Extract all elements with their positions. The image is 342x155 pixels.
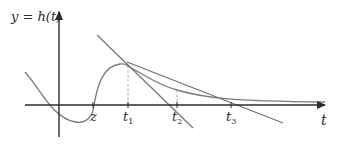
tangent-line-at-t2 bbox=[127, 62, 283, 123]
point-label-t1: t1 bbox=[123, 109, 133, 126]
x-axis-label: t bbox=[321, 112, 327, 128]
point-label-t2: t2 bbox=[172, 109, 182, 126]
point-label-z: z bbox=[89, 109, 97, 124]
y-axis-label: y = h(t) bbox=[10, 9, 61, 24]
point-label-t3: t3 bbox=[226, 109, 236, 126]
tangent-line-at-t1 bbox=[97, 35, 193, 128]
diagram-canvas: y = h(t) t z t1 t2 t3 bbox=[0, 0, 342, 155]
